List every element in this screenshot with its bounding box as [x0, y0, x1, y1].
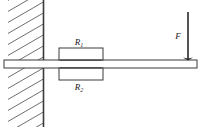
element-box-r1 — [59, 48, 103, 60]
beam-diagram-figure: R1 R2 F — [0, 0, 205, 127]
label-r2-subscript: 2 — [80, 87, 83, 93]
element-box-r2 — [59, 68, 103, 80]
diagram-canvas: R1 R2 F — [0, 0, 205, 127]
label-r1-subscript: 1 — [80, 42, 83, 48]
beam — [4, 60, 197, 68]
label-force: F — [174, 31, 181, 41]
